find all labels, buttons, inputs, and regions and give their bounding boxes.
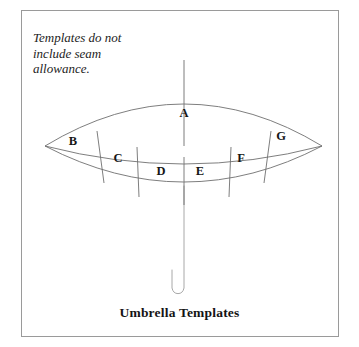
panel-label-a: A <box>179 106 188 121</box>
panel-label-f: F <box>237 151 245 166</box>
panel-label-c: C <box>113 151 122 166</box>
umbrella-handle-hook <box>172 186 184 294</box>
seam-allowance-note: Templates do not include seam allowance. <box>33 30 193 77</box>
canopy-middle-arc <box>45 146 322 164</box>
divider-c-d <box>137 147 139 197</box>
panel-label-b: B <box>69 134 77 149</box>
divider-e-f <box>229 147 231 197</box>
figure-caption: Umbrella Templates <box>0 305 359 321</box>
panel-label-e: E <box>196 164 204 179</box>
figure-root: Templates do not include seam allowance.… <box>0 0 359 347</box>
panel-label-d: D <box>156 164 165 179</box>
panel-label-g: G <box>276 129 286 144</box>
